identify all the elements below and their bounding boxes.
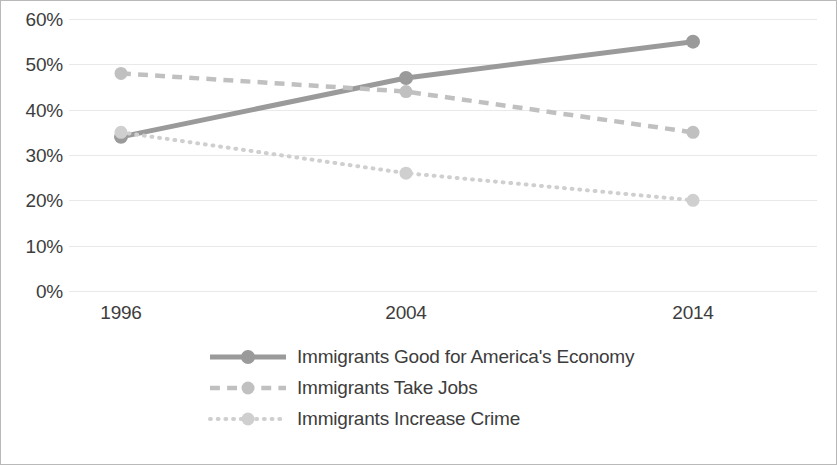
chart-container: 60%50%40%30%20%10%0% 199620042014 Immigr… [0,0,837,465]
y-axis-tick-label: 0% [7,282,63,301]
legend-marker-icon [209,378,287,398]
series-line [121,132,693,200]
legend-item[interactable]: Immigrants Take Jobs [1,372,837,403]
x-axis-tick-label: 2014 [672,303,713,322]
data-point-marker [687,126,700,139]
legend-label: Immigrants Take Jobs [297,378,477,397]
legend-item[interactable]: Immigrants Good for America's Economy [1,341,837,372]
data-point-marker [400,167,413,180]
legend-marker-icon [209,347,287,367]
y-axis-tick-label: 50% [7,55,63,74]
gridline [69,291,817,292]
data-point-marker [115,67,128,80]
y-axis-tick-label: 10% [7,236,63,255]
data-point-marker [687,194,700,207]
x-axis: 199620042014 [69,303,817,329]
data-point-marker [400,85,413,98]
x-axis-tick-label: 2004 [385,303,426,322]
y-axis-tick-label: 20% [7,191,63,210]
legend-item[interactable]: Immigrants Increase Crime [1,403,837,434]
data-point-marker [686,35,700,49]
legend-label: Immigrants Good for America's Economy [297,347,634,366]
data-point-marker [115,126,128,139]
series-layer [69,19,817,291]
x-axis-tick-label: 1996 [100,303,141,322]
y-axis-tick-label: 60% [7,10,63,29]
data-point-marker [399,71,413,85]
chart-legend: Immigrants Good for America's EconomyImm… [1,341,837,434]
y-axis-tick-label: 40% [7,100,63,119]
plot-area [69,19,817,291]
y-axis-tick-label: 30% [7,146,63,165]
y-axis: 60%50%40%30%20%10%0% [1,19,63,291]
legend-label: Immigrants Increase Crime [297,409,520,428]
legend-marker-icon [209,409,287,429]
